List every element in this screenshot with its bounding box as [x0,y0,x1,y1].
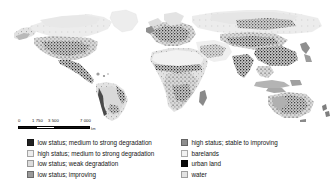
legend-item-label: high status; stable to improving [192,139,278,146]
legend-swatch [181,171,188,178]
legend-swatch [27,160,34,167]
legend-swatch [27,150,34,157]
legend-item-label: low status; medium to strong degradation [38,139,152,146]
scale-tick-7000: 7 000 [80,118,91,123]
legend-item-water: water [181,169,327,180]
legend-swatch [27,139,34,146]
map-legend: low status; medium to strong degradation… [27,137,327,183]
scale-segment-2 [37,127,55,128]
degradation-map-figure: 0 1 750 3 500 7 000 km low status; mediu… [0,0,334,184]
legend-item-label: low status; improving [38,171,96,178]
map-panel [0,0,334,122]
legend-item-label: barelands [192,150,219,157]
legend-item-label: water [192,171,207,178]
scale-segment-3 [54,127,89,128]
map-scale-bar: 0 1 750 3 500 7 000 km [18,118,104,136]
legend-swatch [181,150,188,157]
legend-item-low-strong-degradation: low status; medium to strong degradation [27,137,179,148]
scale-tick-3500: 3 500 [48,118,59,123]
world-map-graphic [0,0,334,122]
legend-item-high-strong-degradation: high status; medium to strong degradatio… [27,148,179,159]
legend-column-right: high status; stable to improving barelan… [181,137,327,180]
scale-tick-0: 0 [18,118,20,123]
legend-item-label: high status; medium to strong degradatio… [38,150,155,157]
legend-swatch [181,160,188,167]
scale-bar-graphic [18,126,90,129]
legend-item-high-stable-improving: high status; stable to improving [181,137,327,148]
legend-item-low-weak-degradation: low status; weak degradation [27,159,179,170]
scale-bar-labels: 0 1 750 3 500 7 000 [18,118,104,125]
legend-item-barelands: barelands [181,148,327,159]
legend-item-label: urban land [192,160,222,167]
legend-column-left: low status; medium to strong degradation… [27,137,179,180]
legend-item-low-improving: low status; improving [27,169,179,180]
scale-bar-unit: km [91,127,96,131]
legend-item-label: low status; weak degradation [38,160,119,167]
legend-item-urban-land: urban land [181,159,327,170]
legend-swatch [181,139,188,146]
legend-swatch [27,171,34,178]
scale-tick-1750: 1 750 [32,118,43,123]
scale-segment-1 [19,127,37,128]
